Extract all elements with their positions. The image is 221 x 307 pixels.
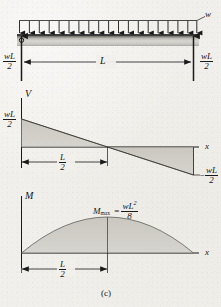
shear-diagram-group	[22, 98, 201, 175]
moment-max-label: Mmax = wL2 8	[93, 202, 138, 222]
moment-max-denominator: 8	[121, 211, 137, 221]
moment-max-numerator: wL2	[121, 202, 137, 211]
shear-half-span-numerator: L	[59, 153, 66, 162]
figure-caption: (c)	[101, 288, 111, 298]
beam-diagram-svg	[0, 0, 221, 307]
loaded-beam-group	[17, 17, 205, 82]
span-label-backdrop	[96, 55, 116, 69]
moment-max-symbol: M	[93, 207, 101, 216]
shear-start-numerator: wL	[3, 110, 16, 119]
moment-max-numerator-base: wL	[122, 201, 133, 211]
moment-half-span-numerator: L	[59, 260, 66, 269]
beam-body	[17, 35, 199, 46]
moment-max-exponent: 2	[133, 200, 136, 206]
shear-end-value-label: − wL 2	[199, 166, 218, 186]
reaction-right-numerator: wL	[200, 52, 213, 61]
span-label: L	[100, 56, 106, 66]
moment-axis-x-label: x	[205, 248, 209, 257]
moment-half-span-denominator: 2	[59, 269, 66, 279]
moment-axis-y-label: M	[25, 191, 33, 201]
reaction-left-numerator: wL	[3, 52, 16, 61]
shear-end-denominator: 2	[205, 175, 218, 185]
distributed-load-arrows	[20, 21, 197, 33]
shear-half-span-label: L 2	[59, 153, 66, 173]
figure-page: w wL 2 L wL 2 V wL 2 x L 2 − wL	[0, 0, 221, 307]
shear-start-denominator: 2	[3, 119, 16, 129]
shear-axis-y-label: V	[25, 89, 31, 99]
reaction-right-denominator: 2	[200, 61, 213, 71]
shear-half-span-denominator: 2	[59, 162, 66, 172]
load-label-leader	[197, 17, 205, 21]
reaction-left-denominator: 2	[3, 61, 16, 71]
moment-max-subscript: max	[101, 210, 111, 216]
distributed-load-label: w	[205, 10, 211, 19]
shear-axis-x-label: x	[205, 142, 209, 151]
reaction-left-label: wL 2	[3, 52, 16, 72]
moment-half-span-label: L 2	[59, 260, 66, 280]
moment-max-equals: =	[112, 207, 121, 216]
shear-start-value-label: wL 2	[3, 110, 16, 130]
reaction-right-label: wL 2	[200, 52, 213, 72]
shear-end-numerator: wL	[205, 166, 218, 175]
